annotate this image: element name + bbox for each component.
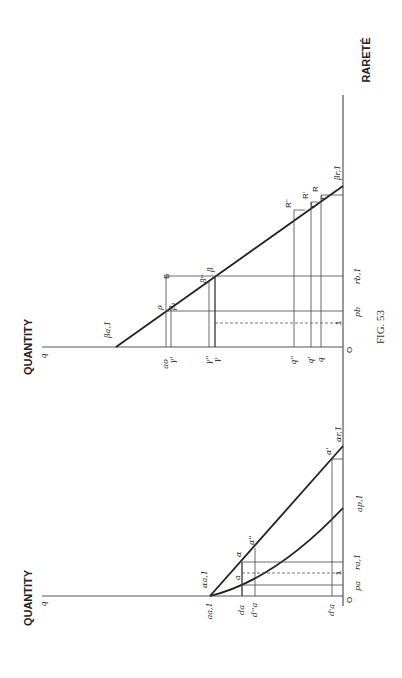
aa1-tick-label: aa,1 — [205, 602, 214, 619]
origin-label-upper: O — [345, 347, 354, 353]
R-label: R — [311, 186, 320, 192]
q-prime-tick-label: q' — [306, 356, 315, 363]
r-label: r — [318, 195, 327, 200]
beta-demand-line — [116, 186, 343, 347]
r-prime-label: r' — [308, 202, 317, 208]
alpha-line — [210, 446, 343, 596]
pa-tick-label: pa — [353, 581, 362, 591]
upper-quantity-axis-label: QUANTITY — [22, 318, 34, 375]
alpha-prime-label: α' — [324, 447, 333, 455]
rarete-axis-label: RARETÉ — [360, 37, 372, 82]
da-tick-label: da — [237, 605, 246, 615]
pb-tick-label: pb — [353, 307, 362, 317]
d-prime-a-tick-label: d'a — [327, 604, 336, 616]
origin-label-lower: O — [345, 597, 354, 603]
a-label: a — [233, 575, 242, 580]
alpha-dd-label: α'' — [247, 535, 256, 545]
beta-r1-label: βr,1 — [333, 165, 342, 181]
d-dd-a-tick-label: d''a — [250, 603, 259, 618]
R-prime-label: R' — [301, 191, 310, 199]
B-label: B — [162, 274, 171, 279]
ra1-tick-label: ra,1 — [353, 554, 362, 570]
rb1-tick-label: rb,1 — [353, 268, 362, 285]
lower-diagram: QUANTITY q αa,1 αr,1 a ap,1 α α' α'' aa,… — [22, 426, 364, 626]
beta1-label: β₁ — [168, 302, 177, 311]
alpha-a1-label: αa,1 — [200, 570, 209, 588]
gamma-prime-tick-label: γ' — [168, 357, 177, 364]
upper-q-label: q — [39, 353, 48, 358]
unit-tick-label: 1 — [334, 320, 343, 325]
q-tick-label: q — [316, 357, 325, 362]
R-dd-label: R'' — [284, 199, 293, 208]
lower-q-label: q — [39, 601, 48, 606]
beta-dd-label: β'' — [199, 274, 208, 284]
fig-53-diagram: RARETÉ QUANTITY q βa,1 βr,1 ρ β₁ β β'' B… — [0, 0, 402, 678]
rho-label: ρ — [155, 305, 164, 311]
upper-diagram: QUANTITY q βa,1 βr,1 ρ β₁ β β'' B R'' R'… — [22, 165, 386, 375]
figure-caption: FIG. 53 — [374, 309, 386, 344]
beta-label: β — [206, 267, 215, 273]
ap1-label: ap,1 — [355, 494, 364, 512]
alpha-r1-label: αr,1 — [334, 426, 343, 442]
alpha-label: α — [234, 551, 243, 557]
lower-unit-tick-label: 1 — [334, 570, 343, 575]
beta-a1-label: βa,1 — [103, 321, 112, 339]
q-dd-tick-label: q'' — [289, 355, 298, 365]
lower-quantity-axis-label: QUANTITY — [22, 569, 34, 626]
gamma-tick-label: γ — [212, 357, 221, 362]
